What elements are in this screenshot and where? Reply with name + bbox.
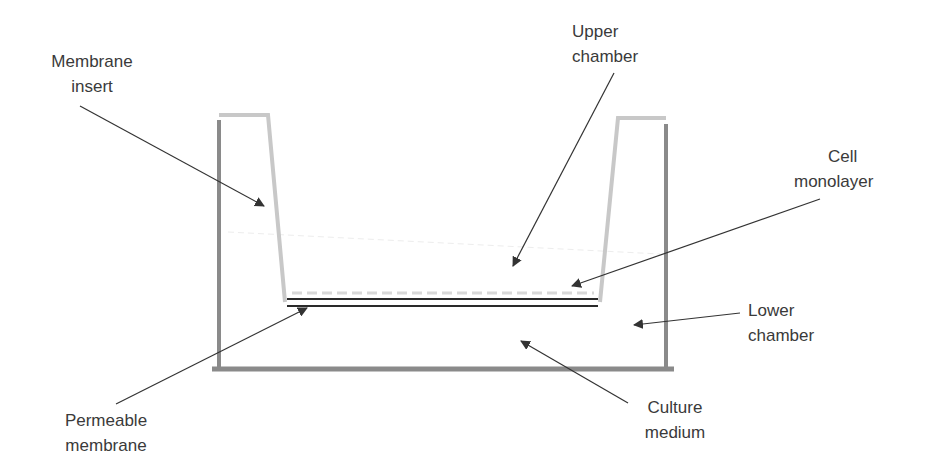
membrane-insert	[219, 115, 666, 302]
label-upper-chamber-line2: chamber	[572, 44, 682, 69]
arrow-membrane-insert	[80, 106, 264, 206]
label-membrane-insert-line1: Membrane	[34, 49, 150, 74]
arrow-culture-medium	[521, 341, 628, 403]
label-permeable-membrane-line2: membrane	[48, 433, 164, 458]
label-lower-chamber-line1: Lower	[748, 298, 858, 323]
label-culture-medium-line2: medium	[630, 420, 720, 445]
label-lower-chamber: Lower chamber	[748, 298, 858, 348]
label-upper-chamber: Upper chamber	[572, 19, 682, 69]
label-cell-monolayer: Cell monolayer	[794, 144, 914, 194]
arrow-upper-chamber	[513, 73, 614, 266]
label-membrane-insert: Membrane insert	[34, 49, 150, 99]
label-upper-chamber-line1: Upper	[572, 19, 682, 44]
label-culture-medium: Culture medium	[630, 395, 720, 445]
label-cell-monolayer-line1: Cell	[794, 144, 914, 169]
permeable-membrane	[287, 299, 598, 306]
label-permeable-membrane-line1: Permeable	[48, 408, 164, 433]
label-culture-medium-line1: Culture	[630, 395, 720, 420]
label-lower-chamber-line2: chamber	[748, 323, 858, 348]
medium-level-line	[228, 232, 660, 254]
arrow-permeable-membrane	[116, 308, 307, 404]
label-permeable-membrane: Permeable membrane	[48, 408, 164, 458]
label-membrane-insert-line2: insert	[34, 74, 150, 99]
arrow-lower-chamber	[634, 313, 740, 325]
label-cell-monolayer-line2: monolayer	[794, 169, 914, 194]
